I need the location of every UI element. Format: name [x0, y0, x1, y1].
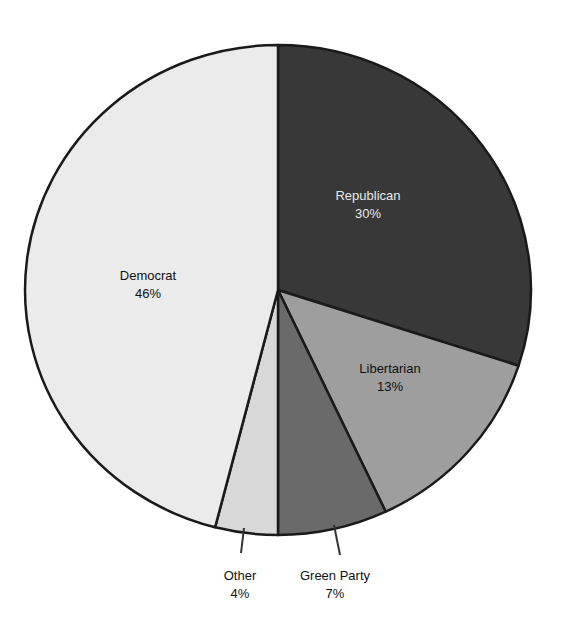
- pie-slices: [25, 45, 531, 535]
- slice-label-democrat: Democrat: [120, 268, 177, 283]
- pie-chart: Republican30%Libertarian13%Green Party7%…: [0, 0, 563, 628]
- slice-label-other: Other: [224, 568, 257, 583]
- slice-value-republican: 30%: [355, 206, 381, 221]
- slice-label-republican: Republican: [335, 188, 400, 203]
- slice-value-other: 4%: [231, 586, 250, 601]
- slice-value-democrat: 46%: [135, 286, 161, 301]
- slice-label-green-party: Green Party: [300, 568, 371, 583]
- slice-value-green-party: 7%: [326, 586, 345, 601]
- slice-label-libertarian: Libertarian: [359, 361, 420, 376]
- slice-value-libertarian: 13%: [377, 379, 403, 394]
